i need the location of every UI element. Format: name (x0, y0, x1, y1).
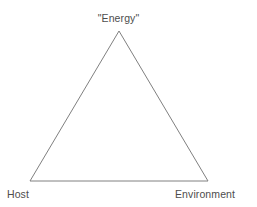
vertex-label-energy: "Energy" (0, 12, 237, 24)
vertex-label-host: Host (7, 188, 29, 200)
triangle-outline (30, 31, 208, 181)
vertex-label-environment: Environment (175, 188, 235, 200)
triangle-shape (0, 0, 257, 207)
diagram-canvas: "Energy" Host Environment (0, 0, 257, 207)
